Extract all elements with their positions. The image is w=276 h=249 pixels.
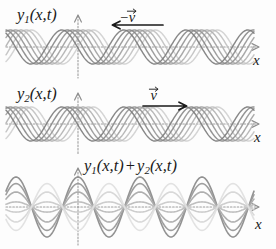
wave-superposition-figure: y1(x,t) −v x y2(x,t) v x y1(x,t)+y2(x,t)…	[0, 0, 276, 249]
panel-wave-y2: y2(x,t) v x	[0, 80, 276, 160]
panel-wave-y1: y1(x,t) −v x	[0, 0, 276, 83]
panel-2-x-axis-label: x	[254, 130, 261, 145]
label-plus-sign: +	[124, 156, 137, 175]
panel-3-y-axis-label: y1(x,t)+y2(x,t)	[84, 158, 177, 176]
x-label-text: x	[253, 52, 260, 68]
minus-sign: −	[120, 9, 128, 25]
panel-1-y-axis-label: y1(x,t)	[17, 7, 57, 25]
panel-2-velocity-label: v	[150, 88, 157, 103]
velocity-symbol: v	[129, 9, 135, 25]
velocity-symbol: v	[151, 87, 157, 103]
label-y-args: (x,t)	[30, 84, 57, 103]
panel-1-velocity-label: −v	[120, 10, 135, 25]
label-y1-args: (x,t)	[97, 156, 124, 175]
panel-2-y-axis-label: y2(x,t)	[17, 86, 57, 104]
x-label-text: x	[254, 129, 261, 145]
label-y2-args: (x,t)	[150, 156, 177, 175]
x-label-text: x	[255, 216, 262, 232]
panel-wave-sum: y1(x,t)+y2(x,t) x	[0, 157, 276, 249]
axes-group	[6, 168, 259, 245]
panel-1-x-axis-label: x	[253, 53, 260, 68]
panel-3-x-axis-label: x	[255, 217, 262, 232]
label-y-args: (x,t)	[30, 5, 57, 24]
